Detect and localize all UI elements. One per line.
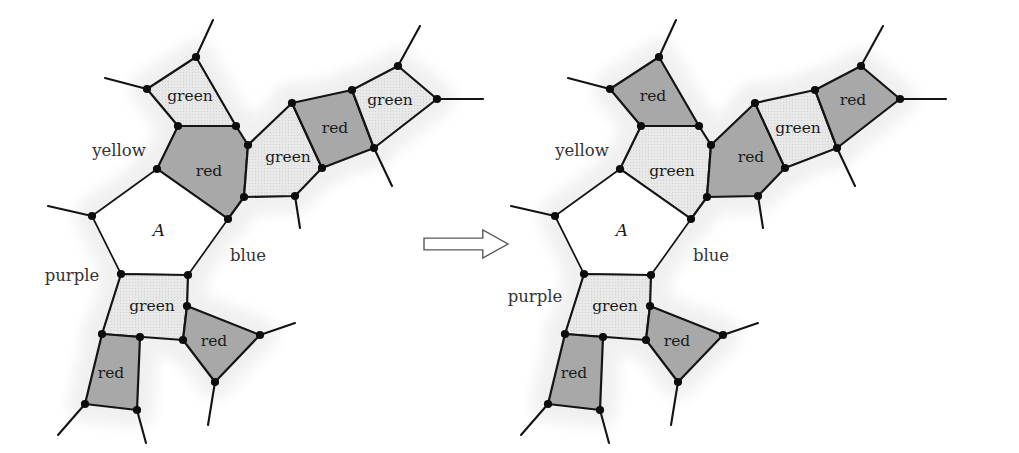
graph-vertex[interactable] <box>642 336 650 344</box>
graph-vertex[interactable] <box>751 99 759 107</box>
graph-vertex[interactable] <box>616 165 624 173</box>
graph-vertex[interactable] <box>224 215 232 223</box>
region-color-label: green <box>265 148 311 166</box>
region-color-label: red <box>640 87 667 105</box>
graph-vertex[interactable] <box>646 302 654 310</box>
graph-vertex[interactable] <box>232 122 240 130</box>
graph-vertex[interactable] <box>596 406 604 414</box>
graph-vertex[interactable] <box>183 302 191 310</box>
right-diagram-group: redgreenredgreenredAgreenredredyellowpur… <box>508 20 946 443</box>
graph-vertex[interactable] <box>647 271 655 279</box>
graph-vertex[interactable] <box>133 406 141 414</box>
graph-vertex[interactable] <box>561 330 569 338</box>
region-color-label: green <box>775 119 821 137</box>
graph-vertex[interactable] <box>781 164 789 172</box>
graph-vertex[interactable] <box>192 53 200 61</box>
region-color-label: red <box>840 91 867 109</box>
outer-region-label-blue: blue <box>230 246 266 265</box>
graph-vertex[interactable] <box>580 270 588 278</box>
region-color-label: green <box>129 297 175 315</box>
graph-vertex[interactable] <box>318 164 326 172</box>
graph-vertex[interactable] <box>687 215 695 223</box>
region-color-label: green <box>167 87 213 105</box>
outer-region-label-yellow: yellow <box>554 141 609 160</box>
arrow-icon <box>424 230 508 258</box>
graph-vertex[interactable] <box>433 95 441 103</box>
graph-vertex[interactable] <box>179 336 187 344</box>
implies-arrow <box>424 230 508 258</box>
graph-vertex[interactable] <box>674 378 682 386</box>
left-diagram-group: greenredgreenredgreenAgreenredredyellowp… <box>45 20 483 443</box>
outer-region-label-blue: blue <box>693 246 729 265</box>
region-color-label: green <box>649 162 695 180</box>
graph-vertex[interactable] <box>707 141 715 149</box>
outer-region-label-yellow: yellow <box>91 141 146 160</box>
region-color-label: red <box>561 364 588 382</box>
region-color-label: red <box>322 119 349 137</box>
region-color-label: A <box>614 220 628 240</box>
region-color-label: green <box>592 297 638 315</box>
graph-vertex[interactable] <box>98 330 106 338</box>
graph-vertex[interactable] <box>143 85 151 93</box>
graph-vertex[interactable] <box>599 333 607 341</box>
graph-vertex[interactable] <box>833 144 841 152</box>
outer-region-label-purple: purple <box>508 287 563 306</box>
graph-vertex[interactable] <box>174 122 182 130</box>
outer-region-label-purple: purple <box>45 266 100 285</box>
graph-vertex[interactable] <box>88 212 96 220</box>
graph-vertex[interactable] <box>81 400 89 408</box>
graph-vertex[interactable] <box>655 53 663 61</box>
graph-vertex[interactable] <box>211 378 219 386</box>
graph-vertex[interactable] <box>606 85 614 93</box>
graph-vertex[interactable] <box>544 400 552 408</box>
graph-vertex[interactable] <box>719 331 727 339</box>
graph-vertex[interactable] <box>291 192 299 200</box>
graph-vertex[interactable] <box>244 141 252 149</box>
diagram-canvas: greenredgreenredgreenAgreenredredyellowp… <box>0 0 1019 453</box>
graph-vertex[interactable] <box>394 62 402 70</box>
graph-vertex[interactable] <box>370 144 378 152</box>
region-color-label: red <box>738 148 765 166</box>
graph-vertex[interactable] <box>695 122 703 130</box>
graph-vertex[interactable] <box>117 270 125 278</box>
graph-vertex[interactable] <box>153 165 161 173</box>
graph-vertex[interactable] <box>288 99 296 107</box>
graph-vertex[interactable] <box>703 193 711 201</box>
region-color-label: green <box>367 91 413 109</box>
graph-vertex[interactable] <box>240 193 248 201</box>
graph-coloring-figure: greenredgreenredgreenAgreenredredyellowp… <box>0 0 1019 453</box>
region-color-label: red <box>201 332 228 350</box>
region-color-label: red <box>664 332 691 350</box>
graph-vertex[interactable] <box>184 271 192 279</box>
graph-vertex[interactable] <box>348 86 356 94</box>
graph-vertex[interactable] <box>811 86 819 94</box>
graph-vertex[interactable] <box>857 62 865 70</box>
graph-vertex[interactable] <box>637 122 645 130</box>
graph-vertex[interactable] <box>136 333 144 341</box>
graph-vertex[interactable] <box>551 212 559 220</box>
graph-vertex[interactable] <box>754 192 762 200</box>
region-color-label: red <box>196 162 223 180</box>
region-color-label: red <box>98 364 125 382</box>
graph-vertex[interactable] <box>896 95 904 103</box>
graph-vertex[interactable] <box>256 331 264 339</box>
region-color-label: A <box>151 220 165 240</box>
